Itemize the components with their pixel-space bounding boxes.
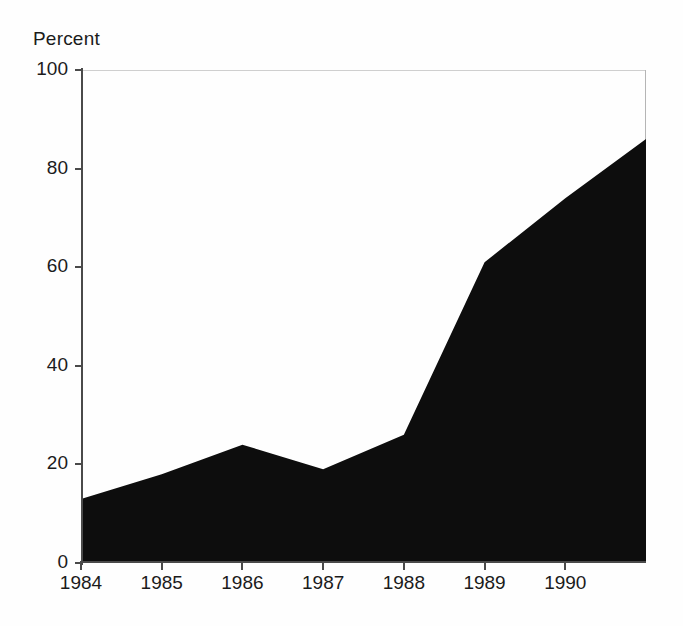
y-axis-tick-label: 40 [28, 354, 68, 376]
x-axis-tick-label: 1984 [46, 572, 116, 594]
x-axis-tick-label: 1989 [450, 572, 520, 594]
x-axis-tick-mark [241, 563, 243, 570]
y-axis-title: Percent [33, 28, 100, 50]
y-axis-tick-label: 80 [28, 157, 68, 179]
x-axis-tick-mark [403, 563, 405, 570]
y-axis-tick-label: 20 [28, 452, 68, 474]
area-series-percent [81, 70, 646, 563]
x-axis-tick-mark [161, 563, 163, 570]
area-fill-shape [81, 139, 646, 563]
x-axis-tick-mark [80, 563, 82, 570]
x-axis-tick-mark [564, 563, 566, 570]
x-axis-tick-label: 1986 [207, 572, 277, 594]
x-axis-line [80, 561, 646, 563]
x-axis-tick-label: 1990 [530, 572, 600, 594]
y-axis-line [81, 68, 83, 565]
x-axis-tick-mark [484, 563, 486, 570]
y-axis-tick-label: 0 [28, 551, 68, 573]
y-axis-tick-label: 100 [28, 58, 68, 80]
x-axis-tick-label: 1988 [369, 572, 439, 594]
plot-area [81, 70, 646, 563]
chart-figure: Percent 020406080100 1984198519861987198… [0, 0, 683, 626]
x-axis-tick-mark [322, 563, 324, 570]
x-axis-tick-label: 1985 [127, 572, 197, 594]
x-axis-tick-label: 1987 [288, 572, 358, 594]
y-axis-tick-label: 60 [28, 255, 68, 277]
